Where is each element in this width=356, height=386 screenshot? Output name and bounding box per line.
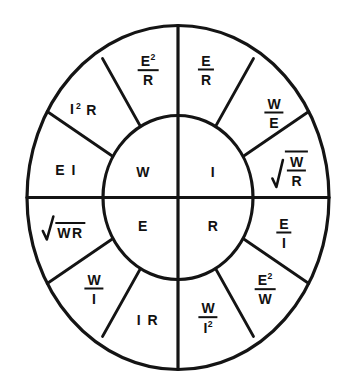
- fraction-e-squared-over-w: E2 W: [255, 272, 276, 306]
- numerator: W: [290, 154, 303, 170]
- numerator-exponent: 2: [268, 271, 273, 281]
- denominator: R: [201, 72, 211, 88]
- outer-sector-formula-sqrt-wr: WR: [42, 222, 85, 242]
- inner-quadrant-power-symbol: W: [136, 164, 150, 180]
- term-i-r: I R: [137, 313, 159, 327]
- outer-sector-formula-w-over-e: W E: [264, 97, 283, 130]
- term-exponent: 2: [76, 101, 82, 111]
- inner-quadrant-voltage-symbol: E: [138, 218, 148, 234]
- outer-sector-formula-e-over-i: E I: [276, 217, 291, 250]
- numerator: W: [267, 96, 280, 112]
- inner-quadrant-resistance-symbol: R: [208, 218, 219, 234]
- term-i-squared-r: I2R: [70, 102, 98, 117]
- wheel-geometry: [0, 0, 356, 386]
- inner-quadrant-resistance: R: [208, 219, 219, 233]
- radical-sqrt-wr: WR: [42, 222, 85, 240]
- denominator-exponent: 2: [208, 319, 213, 329]
- numerator: E: [258, 272, 267, 288]
- fraction-e-over-r: E R: [198, 54, 214, 87]
- denominator: I: [282, 235, 286, 251]
- outer-sector-formula-sqrt-w-over-r: W R: [272, 151, 308, 190]
- outer-sector-formula-e-times-i: E I: [55, 163, 77, 177]
- fraction-e-over-i: E I: [276, 217, 291, 250]
- term-tail: R: [86, 101, 98, 117]
- inner-quadrant-current-symbol: I: [211, 164, 215, 180]
- numerator: W: [201, 300, 214, 316]
- fraction-w-over-e: W E: [264, 97, 283, 130]
- denominator: R: [291, 173, 301, 189]
- ohms-law-wheel: W I E R E R W E W: [0, 0, 356, 386]
- fraction-w-over-i: W I: [84, 273, 103, 306]
- radical-sign-icon: [42, 222, 55, 240]
- inner-quadrant-power: W: [136, 165, 150, 179]
- inner-quadrant-current: I: [211, 165, 215, 179]
- fraction-e-squared-over-r: E2 R: [138, 53, 159, 87]
- inner-quadrant-voltage: E: [138, 219, 148, 233]
- numerator: E: [141, 53, 150, 69]
- denominator: W: [258, 291, 271, 307]
- numerator: E: [201, 53, 210, 69]
- denominator: R: [143, 72, 153, 88]
- term-e-i: E I: [55, 163, 77, 177]
- outer-sector-formula-w-over-i-squared: W I2: [198, 301, 217, 335]
- term-wr: WR: [57, 226, 83, 240]
- outer-sector-formula-e-squared-over-r: E2 R: [138, 53, 159, 87]
- outer-sector-formula-w-over-i: W I: [84, 273, 103, 306]
- outer-sector-formula-i-times-r: I R: [137, 313, 159, 327]
- radical-sqrt-w-over-r: W R: [272, 151, 308, 188]
- denominator: I: [92, 291, 96, 307]
- radical-sign-icon: [272, 151, 285, 188]
- fraction-w-over-i-squared: W I2: [198, 301, 217, 335]
- term-base: I: [70, 101, 75, 117]
- numerator-exponent: 2: [151, 52, 156, 62]
- outer-sector-formula-i-squared-r: I2R: [70, 102, 98, 117]
- outer-sector-formula-e-squared-over-w: E2 W: [255, 272, 276, 306]
- denominator: E: [269, 115, 278, 131]
- numerator: W: [87, 272, 100, 288]
- outer-sector-formula-e-over-r: E R: [198, 54, 214, 87]
- numerator: E: [279, 216, 288, 232]
